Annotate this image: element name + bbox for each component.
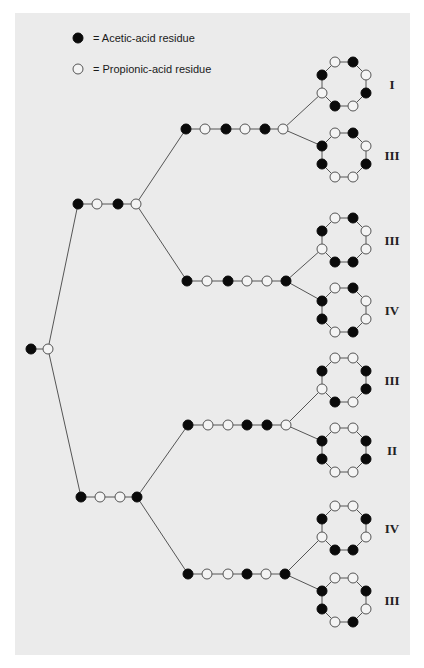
- acetic-residue-node: [183, 420, 193, 430]
- acetic-residue-node: [317, 314, 327, 324]
- propionic-residue-node: [348, 467, 358, 477]
- propionic-residue-node: [348, 501, 358, 511]
- propionic-residue-node: [330, 172, 340, 182]
- acetic-residue-node: [317, 604, 327, 614]
- ring-isomer-label: IV: [385, 303, 400, 318]
- propionic-residue-node: [200, 124, 210, 134]
- propionic-residue-node: [262, 276, 272, 286]
- legend: = Acetic-acid residue = Propionic-acid r…: [73, 32, 211, 75]
- branch-line: [283, 129, 322, 146]
- branch-line: [285, 574, 322, 591]
- propionic-residue-node: [131, 199, 141, 209]
- propionic-residue-node: [361, 296, 371, 306]
- acetic-residue-node: [348, 545, 358, 555]
- acetic-residue-node: [317, 514, 327, 524]
- acetic-residue-node: [26, 344, 36, 354]
- propionic-residue-node: [261, 569, 271, 579]
- branch-line: [285, 537, 322, 574]
- acetic-residue-node: [182, 276, 192, 286]
- acetic-residue-node: [223, 276, 233, 286]
- acetic-residue-node: [348, 257, 358, 267]
- propionic-residue-node: [317, 244, 327, 254]
- acetic-residue-node: [348, 128, 358, 138]
- acetic-residue-node: [361, 514, 371, 524]
- acetic-residue-node: [330, 397, 340, 407]
- branch-line: [136, 204, 187, 281]
- acetic-residue-node: [317, 70, 327, 80]
- acetic-residue-node: [348, 327, 358, 337]
- propionic-residue-node: [348, 397, 358, 407]
- acetic-residue-node: [242, 420, 252, 430]
- acetic-residue-node: [361, 88, 371, 98]
- branch-line: [286, 425, 322, 441]
- acetic-residue-node: [317, 454, 327, 464]
- acetic-residue-node: [361, 159, 371, 169]
- propionic-residue-node: [330, 283, 340, 293]
- propionic-residue-node: [43, 344, 53, 354]
- acetic-residue-node: [330, 545, 340, 555]
- acetic-residue-node: [348, 283, 358, 293]
- propionic-residue-node: [281, 420, 291, 430]
- acetic-residue-node: [281, 276, 291, 286]
- propionic-residue-node: [330, 353, 340, 363]
- propionic-residue-node: [223, 420, 233, 430]
- propionic-residue-node: [317, 384, 327, 394]
- acetic-residue-node: [76, 492, 86, 502]
- acetic-residue-node: [317, 141, 327, 151]
- propionic-residue-node: [348, 172, 358, 182]
- ring-isomer-label: IV: [385, 521, 400, 536]
- ring-isomer-label: III: [384, 373, 399, 388]
- acetic-residue-node: [280, 569, 290, 579]
- acetic-residue-node: [242, 569, 252, 579]
- acetic-residue-node: [348, 213, 358, 223]
- propionic-residue-node: [361, 604, 371, 614]
- acetic-residue-node: [260, 124, 270, 134]
- branch-line: [283, 93, 322, 129]
- tree-nodes: [26, 57, 371, 627]
- ring-isomer-label: III: [384, 233, 399, 248]
- propionic-residue-node: [330, 423, 340, 433]
- acetic-residue-node: [330, 257, 340, 267]
- acetic-residue-node: [361, 454, 371, 464]
- propionic-residue-node: [330, 617, 340, 627]
- ring-labels: IIIIIIIIVIIIIIIVIII: [384, 77, 399, 608]
- ring-isomer-label: II: [387, 443, 397, 458]
- propionic-residue-node: [361, 244, 371, 254]
- acetic-residue-node: [262, 420, 272, 430]
- propionic-residue-node: [330, 327, 340, 337]
- propionic-residue-node: [95, 492, 105, 502]
- propionic-residue-node: [348, 423, 358, 433]
- propionic-residue-node: [348, 353, 358, 363]
- acetic-residue-node: [361, 384, 371, 394]
- acetic-residue-node: [221, 124, 231, 134]
- propionic-residue-node: [203, 420, 213, 430]
- propionic-residue-node: [317, 88, 327, 98]
- propionic-residue-node: [361, 70, 371, 80]
- propionic-residue-legend-label: = Propionic-acid residue: [93, 63, 211, 75]
- propionic-residue-node: [242, 276, 252, 286]
- acetic-residue-node: [317, 586, 327, 596]
- propionic-residue-node: [115, 492, 125, 502]
- acetic-residue-node: [317, 436, 327, 446]
- ring-isomer-label: III: [384, 148, 399, 163]
- branch-line: [137, 497, 188, 574]
- ring-isomer-label: I: [389, 77, 394, 92]
- branch-line: [48, 349, 81, 497]
- acetic-residue-legend-label: = Acetic-acid residue: [93, 32, 195, 44]
- acetic-residue-node: [73, 199, 83, 209]
- propionic-residue-node: [278, 124, 288, 134]
- branch-line: [286, 281, 322, 301]
- branch-line: [286, 389, 322, 425]
- branch-line: [286, 249, 322, 281]
- acetic-residue-node: [361, 366, 371, 376]
- acetic-residue-node: [361, 436, 371, 446]
- propionic-residue-node: [348, 101, 358, 111]
- acetic-residue-node: [317, 226, 327, 236]
- propionic-residue-node: [330, 573, 340, 583]
- propionic-residue-node: [202, 276, 212, 286]
- acetic-residue-node: [317, 159, 327, 169]
- propionic-residue-node: [361, 314, 371, 324]
- acetic-residue-node: [348, 617, 358, 627]
- propionic-residue-node: [240, 124, 250, 134]
- propionic-residue-node: [361, 532, 371, 542]
